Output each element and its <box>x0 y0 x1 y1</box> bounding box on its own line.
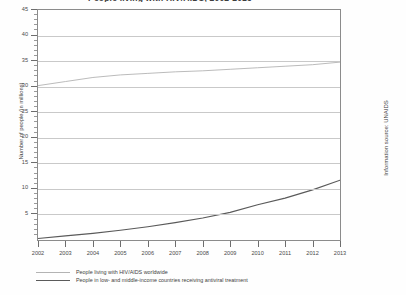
x-axis-label: 2002 <box>23 250 53 256</box>
x-axis-tick <box>65 241 66 247</box>
x-axis-tick <box>203 241 204 247</box>
legend-swatch <box>36 280 70 281</box>
y-axis-label: 10 <box>6 184 28 190</box>
x-axis-tick <box>340 241 341 247</box>
x-axis-tick <box>93 241 94 247</box>
x-axis-tick <box>230 241 231 247</box>
x-axis-label: 2012 <box>298 250 328 256</box>
gridline <box>38 61 340 62</box>
y-axis-label: 5 <box>6 210 28 216</box>
x-axis-tick <box>175 241 176 247</box>
x-axis-tick <box>38 241 39 247</box>
x-axis-tick <box>313 241 314 247</box>
legend-label: People living with HIV/AIDS worldwide <box>76 269 168 275</box>
y-axis-label: 20 <box>6 133 28 139</box>
x-axis-tick <box>258 241 259 247</box>
x-axis-label: 2008 <box>188 250 218 256</box>
gridline <box>38 87 340 88</box>
y-axis-label: 30 <box>6 82 28 88</box>
x-axis-label: 2004 <box>78 250 108 256</box>
y-axis-label: 15 <box>6 159 28 165</box>
legend-label: People in low- and middle-income countri… <box>76 277 248 283</box>
chart-legend: People living with HIV/AIDS worldwidePeo… <box>36 268 248 284</box>
gridline <box>38 163 340 164</box>
data-lines <box>38 10 340 240</box>
x-axis-label: 2006 <box>133 250 163 256</box>
chart-page: People living with HIV/AIDS, 2002-2013 N… <box>0 0 406 295</box>
gridline <box>38 214 340 215</box>
chart-title: People living with HIV/AIDS, 2002-2013 <box>0 0 340 2</box>
gridline <box>38 189 340 190</box>
y-axis-label: 25 <box>6 108 28 114</box>
x-axis-label: 2009 <box>215 250 245 256</box>
x-axis-label: 2013 <box>325 250 355 256</box>
y-axis-title: Number of people (in millions) <box>18 46 24 196</box>
series-line <box>38 62 340 86</box>
legend-item[interactable]: People living with HIV/AIDS worldwide <box>36 268 248 276</box>
gridline <box>38 112 340 113</box>
x-axis-label: 2005 <box>105 250 135 256</box>
legend-swatch <box>36 272 70 273</box>
x-axis-label: 2007 <box>160 250 190 256</box>
x-axis-tick <box>285 241 286 247</box>
y-axis-label: 35 <box>6 57 28 63</box>
y-axis-label: 40 <box>6 31 28 37</box>
y-axis-label: 45 <box>6 6 28 12</box>
x-axis-label: 2011 <box>270 250 300 256</box>
gridline <box>38 36 340 37</box>
gridline <box>38 138 340 139</box>
x-axis-label: 2003 <box>50 250 80 256</box>
x-axis-tick <box>120 241 121 247</box>
x-axis-tick <box>148 241 149 247</box>
x-axis-label: 2010 <box>243 250 273 256</box>
plot-area <box>37 9 341 241</box>
legend-item[interactable]: People in low- and middle-income countri… <box>36 276 248 284</box>
source-note: Information source: UNAIDS <box>383 58 389 218</box>
